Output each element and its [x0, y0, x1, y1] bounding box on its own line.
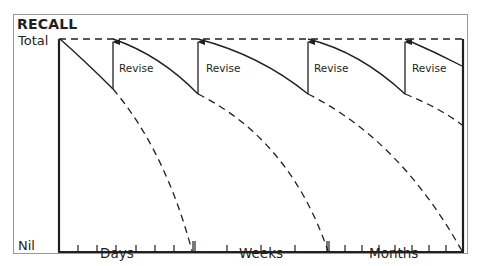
x-axis-ticks	[78, 241, 446, 252]
recall-diagram	[0, 0, 488, 266]
revise-arrows	[113, 42, 405, 94]
forgetting-curves-solid	[60, 39, 462, 94]
forgetting-curves-dashed	[113, 89, 462, 251]
